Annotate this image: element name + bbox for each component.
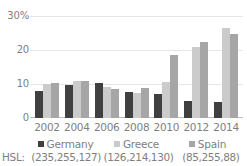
bar-group: [32, 16, 62, 118]
legend-label: Greece: [123, 139, 159, 150]
bar: [35, 91, 43, 118]
bar: [214, 102, 222, 118]
bar-group: [92, 16, 122, 118]
bar: [170, 55, 178, 118]
bar: [95, 83, 103, 118]
bar: [154, 94, 162, 118]
legend-item[interactable]: Germany: [30, 138, 101, 150]
y-tick-10: 10: [1, 79, 29, 89]
bar: [51, 83, 59, 118]
bar: [162, 82, 170, 118]
hsl-value: (85,255,88): [175, 151, 247, 163]
legend-item[interactable]: Spain: [172, 138, 243, 150]
bar: [192, 47, 200, 118]
bar: [125, 92, 133, 118]
bar: [103, 87, 111, 118]
x-tick-label: 2014: [211, 120, 241, 136]
x-tick-label: 2004: [62, 120, 92, 136]
bar: [200, 42, 208, 118]
bar: [230, 34, 238, 118]
hsl-value: (126,214,130): [102, 151, 174, 163]
bar-group: [122, 16, 152, 118]
bar-group: [181, 16, 211, 118]
bar: [141, 88, 149, 118]
bar: [65, 85, 73, 118]
x-tick-label: 2010: [151, 120, 181, 136]
bar: [184, 101, 192, 119]
bar: [81, 81, 89, 118]
bar-group: [211, 16, 241, 118]
bar: [222, 28, 230, 118]
legend-swatch-icon: [189, 141, 195, 147]
plot-area: [30, 16, 243, 118]
chart-legend: GermanyGreeceSpain: [30, 138, 243, 150]
legend-label: Spain: [198, 139, 226, 150]
bar-group: [62, 16, 92, 118]
y-tick-20: 20: [1, 45, 29, 55]
y-tick-30: 30%: [1, 11, 29, 21]
bar-groups: [30, 16, 243, 118]
x-tick-label: 2008: [122, 120, 152, 136]
bar: [43, 84, 51, 118]
x-tick-label: 2012: [181, 120, 211, 136]
y-axis: 30% 20 10 0: [0, 0, 29, 166]
hsl-label: HSL:: [0, 151, 30, 163]
x-tick-label: 2002: [32, 120, 62, 136]
legend-swatch-icon: [38, 141, 44, 147]
bar: [111, 89, 119, 118]
legend-label: Germany: [47, 139, 94, 150]
legend-swatch-icon: [114, 141, 120, 147]
legend-item[interactable]: Greece: [101, 138, 172, 150]
bar-chart: 30% 20 10 0 2002200420062008201020122014…: [0, 0, 247, 166]
y-tick-0: 0: [1, 113, 29, 123]
bar: [133, 93, 141, 118]
hsl-value: (235,255,127): [30, 151, 102, 163]
bar-group: [151, 16, 181, 118]
x-tick-label: 2006: [92, 120, 122, 136]
hsl-row: HSL: (235,255,127)(126,214,130)(85,255,8…: [0, 150, 247, 164]
bar: [73, 81, 81, 118]
x-axis: 2002200420062008201020122014: [30, 120, 243, 136]
hsl-values: (235,255,127)(126,214,130)(85,255,88): [30, 151, 247, 163]
